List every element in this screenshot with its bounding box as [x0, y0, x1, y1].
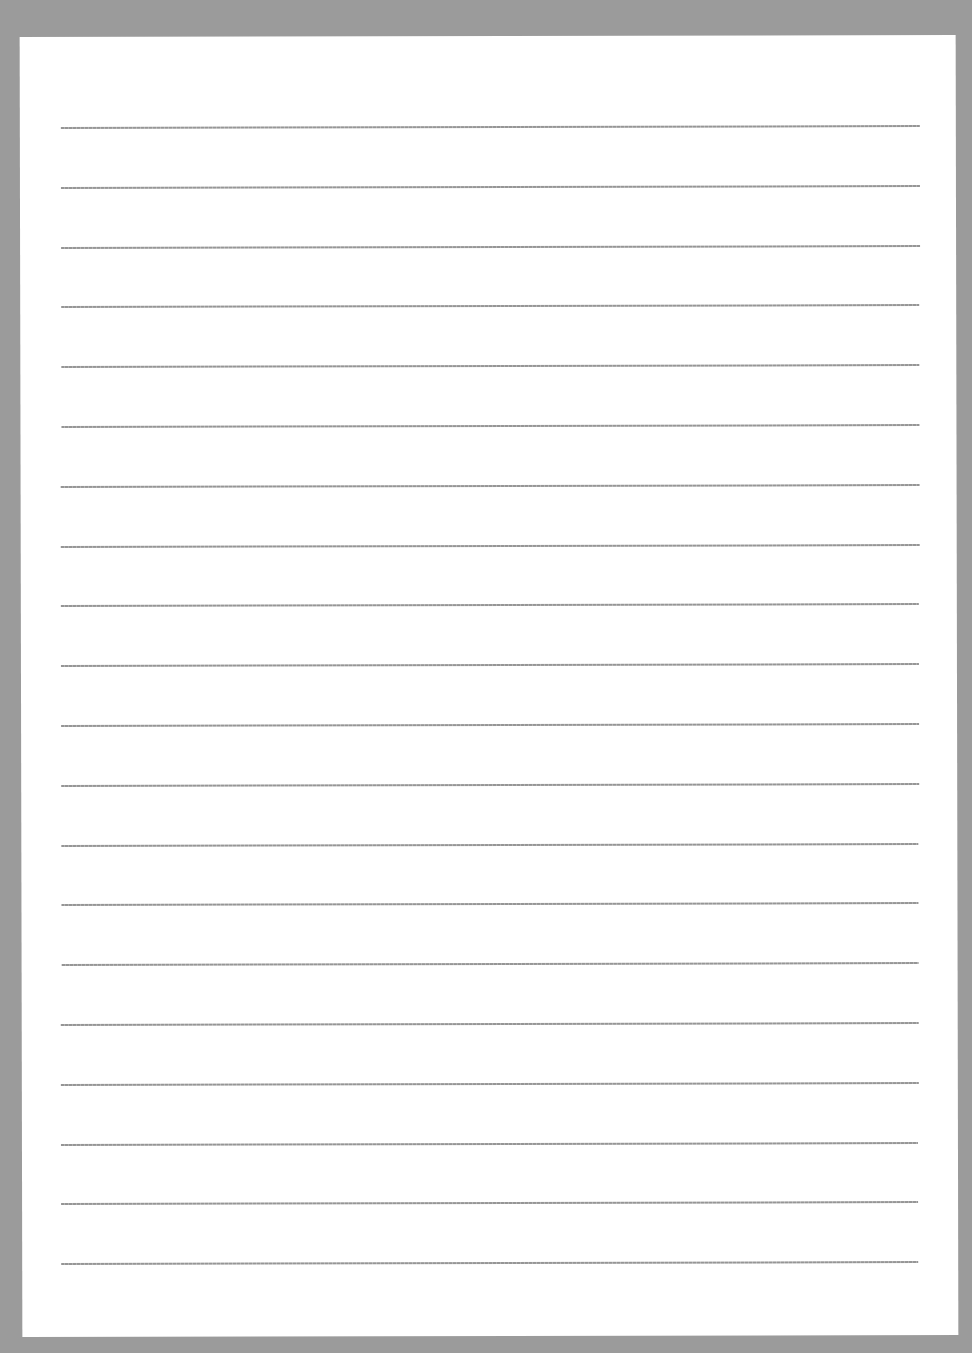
ruled-line [61, 723, 919, 727]
ruled-line [61, 125, 920, 129]
ruled-line [61, 1082, 918, 1086]
ruled-line [61, 484, 919, 488]
ruled-line [61, 1022, 918, 1026]
ruled-line [61, 663, 919, 667]
ruled-line [61, 1142, 918, 1146]
ruled-line [61, 245, 920, 249]
ruled-line [61, 544, 919, 548]
ruled-line [61, 902, 919, 906]
ruled-line [61, 1201, 918, 1205]
ruled-line [61, 603, 919, 607]
ruled-line [61, 364, 920, 368]
ruled-line [61, 424, 920, 428]
ruled-line [61, 1261, 918, 1265]
ruled-line [61, 304, 920, 308]
ruled-line [61, 843, 919, 847]
lined-paper-sheet [20, 35, 959, 1337]
ruled-line [61, 962, 919, 966]
ruled-line [61, 185, 920, 189]
ruled-line [61, 783, 919, 787]
